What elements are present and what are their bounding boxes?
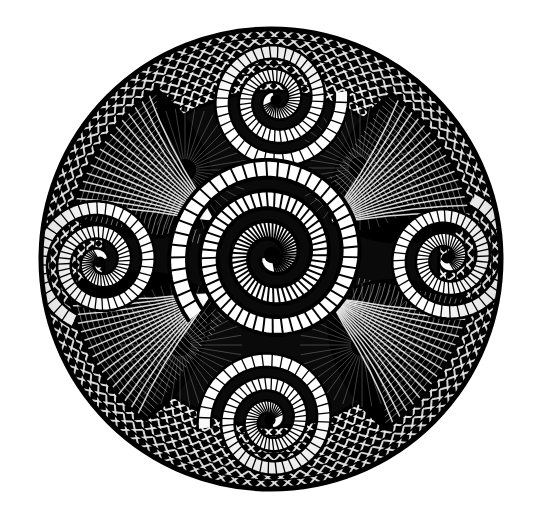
artwork-canvas: Celtic La Tene Quadruple Spiral Roundel … — [0, 0, 543, 516]
celtic-spiral-mandala — [0, 0, 543, 516]
